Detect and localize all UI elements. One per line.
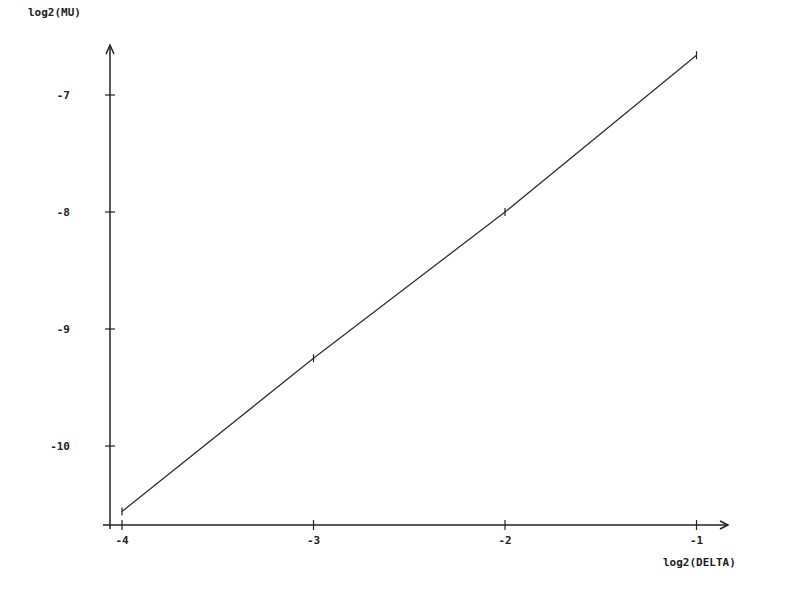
data-line: [122, 55, 697, 511]
y-tick-label: -8: [57, 206, 70, 219]
y-tick-label: -10: [50, 440, 70, 453]
data-markers: [122, 51, 697, 515]
x-tick-label: -2: [498, 534, 511, 547]
y-axis-label: log2(MU): [28, 6, 81, 19]
x-tick-label: -1: [690, 534, 704, 547]
chart: -10-9-8-7 -4-3-2-1 log2(MU) log2(DELTA): [0, 0, 799, 594]
x-tick-label: -4: [115, 534, 129, 547]
x-axis-label: log2(DELTA): [663, 556, 736, 569]
y-tick-label: -7: [57, 89, 70, 102]
x-ticks: -4-3-2-1: [115, 520, 703, 547]
x-tick-label: -3: [307, 534, 320, 547]
y-tick-label: -9: [57, 323, 70, 336]
y-ticks: -10-9-8-7: [50, 89, 115, 453]
